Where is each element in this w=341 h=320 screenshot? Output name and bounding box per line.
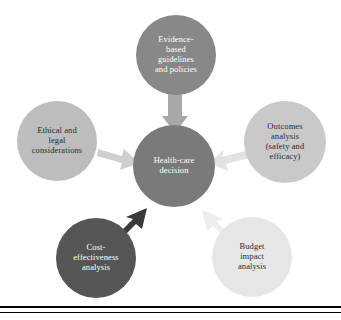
node-ethical-legal-considerations[interactable]: Ethical and legal considerations — [17, 101, 97, 181]
node-evidence-based-guidelines[interactable]: Evidence- based guidelines and policies — [136, 15, 216, 95]
node-label-outcomes-analysis: Outcomes analysis (safety and efficacy) — [244, 122, 326, 161]
bottom-rule-thick — [0, 306, 341, 308]
node-label-evidence-based-guidelines: Evidence- based guidelines and policies — [136, 35, 216, 74]
arrow-outcomes-to-center — [209, 150, 249, 171]
node-label-cost-effectiveness-analysis: Cost- effectiveness analysis — [56, 243, 136, 272]
diagram-canvas: Evidence- based guidelines and policies … — [0, 0, 341, 320]
node-cost-effectiveness-analysis[interactable]: Cost- effectiveness analysis — [56, 218, 136, 298]
node-label-ethical-legal-considerations: Ethical and legal considerations — [17, 126, 97, 155]
bottom-rule-thin — [0, 312, 341, 313]
node-health-care-decision[interactable]: Health-care decision — [133, 125, 215, 207]
node-budget-impact-analysis[interactable]: Budget impact analysis — [212, 217, 292, 297]
node-label-budget-impact-analysis: Budget impact analysis — [212, 242, 292, 271]
node-outcomes-analysis[interactable]: Outcomes analysis (safety and efficacy) — [244, 101, 326, 183]
node-label-health-care-decision: Health-care decision — [133, 156, 215, 176]
